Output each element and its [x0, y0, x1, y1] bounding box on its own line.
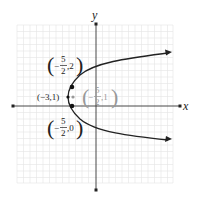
- y-axis-bottom-end-marker: [95, 189, 98, 192]
- svg-text:−: −: [54, 123, 59, 133]
- svg-text:−: −: [88, 92, 93, 102]
- upper-point-label: ( − 5 2 ,2 ): [47, 52, 83, 77]
- y-axis-label: y: [91, 8, 98, 22]
- right-paren: ): [76, 115, 83, 140]
- upper-arrowhead-icon: [165, 50, 172, 56]
- point-upper: [70, 85, 75, 90]
- svg-text:5: 5: [61, 116, 66, 126]
- svg-text:5: 5: [95, 85, 100, 95]
- vertex-label: (−3,1): [37, 92, 59, 102]
- x-axis-right-end-marker: [179, 105, 182, 108]
- svg-text:5: 5: [61, 54, 66, 64]
- x-axis-left-end-marker: [12, 105, 15, 108]
- svg-text:,1: ,1: [101, 92, 108, 102]
- svg-text:2: 2: [95, 97, 100, 107]
- y-axis-top-end-marker: [95, 23, 98, 26]
- svg-text:,0: ,0: [67, 123, 74, 133]
- point-vertex: [66, 95, 69, 98]
- lower-point-label: ( − 5 2 ,0 ): [47, 115, 83, 140]
- svg-text:−: −: [54, 61, 59, 71]
- focus-point-label: ( − 5 2 ,1 ): [82, 84, 118, 109]
- svg-text:2: 2: [61, 66, 66, 76]
- parabola-graph: y x (−3,1) ( − 5 2 ,2 ) ( − 5 2 ,0 ) ( −…: [0, 0, 203, 203]
- lower-arrowhead-icon: [165, 136, 172, 142]
- svg-text:,2: ,2: [67, 61, 74, 71]
- axes: [13, 24, 180, 190]
- svg-text:2: 2: [61, 128, 66, 138]
- point-lower: [70, 104, 75, 109]
- right-paren: ): [76, 52, 83, 77]
- right-paren: ): [111, 84, 118, 109]
- x-axis-label: x: [182, 99, 189, 113]
- point-focus: [71, 95, 74, 98]
